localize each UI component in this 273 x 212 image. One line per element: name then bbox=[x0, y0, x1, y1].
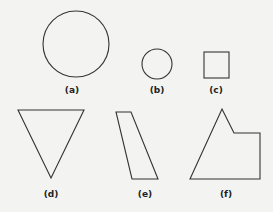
parallelogram-shape bbox=[116, 112, 158, 179]
label-b: (b) bbox=[150, 85, 165, 95]
large-circle-shape bbox=[43, 11, 109, 77]
label-c: (c) bbox=[209, 85, 223, 95]
inverted-triangle-shape bbox=[18, 110, 84, 178]
shapes-figure bbox=[0, 0, 273, 212]
irregular-pentagon-shape bbox=[190, 109, 260, 179]
label-f: (f) bbox=[220, 189, 232, 199]
label-d: (d) bbox=[44, 189, 59, 199]
small-circle-shape bbox=[142, 49, 172, 79]
label-a: (a) bbox=[65, 85, 79, 95]
label-e: (e) bbox=[138, 189, 152, 199]
square-shape bbox=[204, 52, 229, 78]
